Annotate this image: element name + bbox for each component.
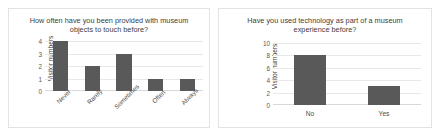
x-label-slot: Never xyxy=(45,91,77,125)
y-tick-label: 0 xyxy=(266,102,270,109)
x-tick-label: Often xyxy=(150,88,166,104)
y-tick-label: 4 xyxy=(266,77,270,84)
bar-slot xyxy=(77,41,109,91)
y-tick-label: 2 xyxy=(38,63,42,70)
x-axis-labels: Never Rarely Sometimes Often Always xyxy=(45,91,203,125)
y-tick-label: 8 xyxy=(266,52,270,59)
bar-series xyxy=(273,43,421,105)
x-tick-label: No xyxy=(273,110,347,117)
bar[interactable] xyxy=(368,86,401,105)
bar-slot xyxy=(347,43,421,105)
bar-slot xyxy=(171,41,203,91)
bar[interactable] xyxy=(116,54,131,92)
chart-panel-touch-objects: How often have you been provided with mu… xyxy=(8,8,210,128)
chart-title: Have you used technology as part of a mu… xyxy=(219,16,431,35)
y-tick-label: 1 xyxy=(38,75,42,82)
x-tick-label: Rarely xyxy=(86,87,104,105)
y-tick-label: 2 xyxy=(266,89,270,96)
x-label-slot: Sometimes xyxy=(108,91,140,125)
x-axis-labels: No Yes xyxy=(273,105,421,117)
y-tick-label: 4 xyxy=(38,38,42,45)
chart-title: How often have you been provided with mu… xyxy=(9,16,209,35)
x-tick-label: Never xyxy=(55,88,72,105)
figure-canvas: How often have you been provided with mu… xyxy=(0,0,440,140)
bar[interactable] xyxy=(53,41,68,91)
bar-slot xyxy=(140,41,172,91)
plot-area: Visitor numbers 0 1 2 3 4 xyxy=(45,41,203,91)
x-label-slot: Often xyxy=(140,91,172,125)
y-tick-label: 6 xyxy=(266,64,270,71)
bar-series xyxy=(45,41,203,91)
bar-slot xyxy=(273,43,347,105)
x-tick-label: Yes xyxy=(347,110,421,117)
bar-slot xyxy=(45,41,77,91)
y-tick-label: 10 xyxy=(263,40,270,47)
x-label-slot: Rarely xyxy=(77,91,109,125)
y-tick-label: 0 xyxy=(38,88,42,95)
bar[interactable] xyxy=(294,55,327,105)
chart-panel-technology-use: Have you used technology as part of a mu… xyxy=(218,8,432,128)
y-tick-label: 3 xyxy=(38,50,42,57)
x-label-slot: Always xyxy=(171,91,203,125)
plot-area: Visitor numbers 0 2 4 6 8 10 xyxy=(273,43,421,105)
